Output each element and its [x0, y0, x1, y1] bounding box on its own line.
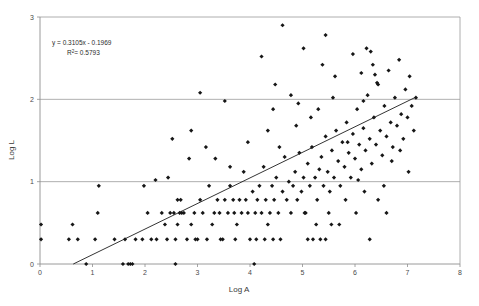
data-point — [324, 134, 328, 138]
data-point — [212, 211, 216, 215]
data-point — [259, 211, 263, 215]
trendline — [73, 97, 415, 264]
data-point — [274, 175, 278, 179]
data-point — [163, 222, 167, 226]
data-point — [242, 170, 246, 174]
data-point — [291, 184, 295, 188]
data-point — [112, 237, 116, 241]
data-point — [328, 189, 332, 193]
data-point — [170, 137, 174, 141]
data-point — [248, 237, 252, 241]
data-point — [362, 189, 366, 193]
data-point — [232, 211, 236, 215]
data-point — [405, 115, 409, 119]
data-point — [395, 124, 399, 128]
data-point — [264, 198, 268, 202]
data-point — [299, 189, 303, 193]
data-point — [237, 198, 241, 202]
data-point — [240, 211, 244, 215]
data-point — [369, 49, 373, 53]
data-point — [382, 104, 386, 108]
data-point — [289, 211, 293, 215]
data-point — [272, 198, 276, 202]
data-point — [294, 124, 298, 128]
data-point — [391, 145, 395, 149]
data-point — [324, 33, 328, 37]
data-point — [359, 71, 363, 75]
data-point — [266, 222, 270, 226]
data-point — [149, 237, 153, 241]
data-point — [93, 237, 97, 241]
x-tick-label: 5 — [301, 269, 305, 276]
data-point — [368, 237, 372, 241]
data-point — [315, 198, 319, 202]
data-point — [314, 222, 318, 226]
y-tick-label: 2 — [30, 96, 34, 103]
data-point — [351, 52, 355, 56]
x-tick-label: 6 — [353, 269, 357, 276]
data-point — [295, 198, 299, 202]
data-point — [179, 198, 183, 202]
plot-frame — [40, 17, 460, 264]
y-axis-tick-labels: 0123 — [30, 14, 34, 268]
data-point — [349, 175, 353, 179]
data-point — [121, 262, 125, 266]
data-point — [296, 101, 300, 105]
data-point — [337, 222, 341, 226]
data-point — [185, 237, 189, 241]
x-tick-label: 1 — [91, 269, 95, 276]
data-point — [380, 153, 384, 157]
data-point — [263, 237, 267, 241]
x-axis-title: Log A — [229, 285, 250, 294]
data-point — [364, 46, 368, 50]
data-point — [289, 93, 293, 97]
data-point — [205, 237, 209, 241]
data-point — [254, 237, 258, 241]
data-point — [398, 148, 402, 152]
data-point — [277, 145, 281, 149]
data-point — [316, 107, 320, 111]
regression-equation-label: y = 0.3105x - 0.1969 — [52, 39, 112, 47]
x-tick-label: 2 — [143, 269, 147, 276]
data-point — [353, 157, 357, 161]
data-point — [130, 262, 134, 266]
data-point — [168, 211, 172, 215]
data-point — [324, 237, 328, 241]
data-point — [378, 129, 382, 133]
data-point — [268, 211, 272, 215]
data-point — [366, 93, 370, 97]
data-point — [257, 184, 261, 188]
data-point — [376, 198, 380, 202]
data-point — [259, 54, 263, 58]
data-point — [233, 237, 237, 241]
data-point — [213, 157, 217, 161]
regression-trendline — [73, 97, 415, 264]
data-point — [370, 161, 374, 165]
data-point — [355, 107, 359, 111]
data-point — [321, 184, 325, 188]
data-point — [382, 184, 386, 188]
data-point — [351, 132, 355, 136]
data-point — [318, 237, 322, 241]
chart-canvas: 012345678 0123 Log A Log L y = 0.3105x -… — [0, 0, 479, 306]
x-tick-label: 4 — [248, 269, 252, 276]
data-point — [173, 237, 177, 241]
data-point — [235, 222, 239, 226]
data-point — [189, 129, 193, 133]
data-point — [226, 211, 230, 215]
data-point — [271, 237, 275, 241]
data-point — [342, 165, 346, 169]
data-point — [166, 175, 170, 179]
data-point — [278, 237, 282, 241]
data-point — [406, 170, 410, 174]
data-point — [283, 155, 287, 159]
data-point — [354, 211, 358, 215]
data-point — [204, 145, 208, 149]
data-point — [384, 134, 388, 138]
data-point — [359, 167, 363, 171]
data-point — [347, 151, 351, 155]
data-point — [255, 198, 259, 202]
data-point — [262, 165, 266, 169]
x-tick-label: 8 — [458, 269, 462, 276]
data-point — [401, 137, 405, 141]
